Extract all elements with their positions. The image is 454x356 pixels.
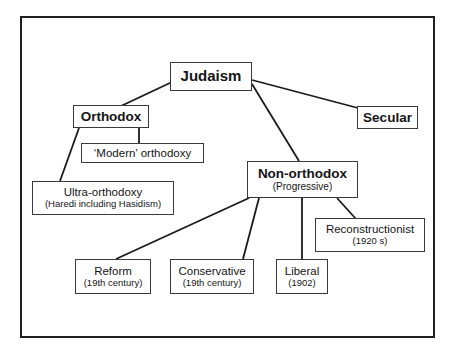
connector-lines (0, 0, 454, 356)
node-non-orthodox-subtitle: (Progressive) (273, 181, 332, 192)
edge-non-orthodox-reconstructionist (337, 198, 356, 219)
node-reform-subtitle: (19th century) (84, 278, 143, 289)
node-liberal-subtitle: (1902) (288, 278, 315, 289)
node-modern-orthodoxy[interactable]: ‘Modern’ orthodoxy (81, 143, 204, 163)
node-orthodox[interactable]: Orthodox (73, 105, 149, 128)
node-judaism-title: Judaism (181, 68, 242, 85)
edge-judaism-orthodox (121, 82, 172, 106)
node-liberal[interactable]: Liberal (1902) (276, 259, 328, 294)
diagram-canvas: Judaism Orthodox Secular ‘Modern’ orthod… (0, 0, 454, 356)
node-ultra-orthodoxy-subtitle: (Haredi including Hasidism) (45, 199, 161, 210)
node-secular[interactable]: Secular (357, 106, 418, 129)
node-reform-title: Reform (94, 265, 132, 278)
node-non-orthodox[interactable]: Non-orthodox (Progressive) (247, 161, 358, 198)
edge-judaism-non-orthodox (252, 84, 299, 161)
node-conservative-title: Conservative (178, 265, 245, 278)
node-reconstructionist-subtitle: (1920 s) (353, 236, 388, 247)
node-non-orthodox-title: Non-orthodox (258, 166, 347, 181)
node-modern-orthodoxy-title: ‘Modern’ orthodoxy (94, 147, 191, 160)
node-ultra-orthodoxy[interactable]: Ultra-orthodoxy (Haredi including Hasidi… (32, 181, 174, 215)
node-judaism[interactable]: Judaism (170, 62, 252, 91)
node-liberal-title: Liberal (285, 265, 320, 278)
node-conservative-subtitle: (19th century) (183, 278, 242, 289)
edge-non-orthodox-conservative (243, 198, 259, 259)
edge-judaism-secular (252, 80, 358, 108)
node-reconstructionist[interactable]: Reconstructionist (1920 s) (315, 218, 425, 252)
node-conservative[interactable]: Conservative (19th century) (170, 259, 254, 294)
edge-orthodox-ultra-orthodoxy (60, 128, 79, 181)
node-reform[interactable]: Reform (19th century) (75, 259, 151, 294)
node-secular-title: Secular (363, 110, 412, 125)
node-orthodox-title: Orthodox (81, 109, 142, 124)
